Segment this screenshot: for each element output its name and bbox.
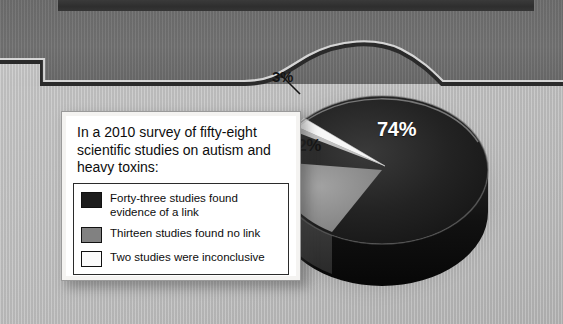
- legend-swatch-gray: [81, 227, 102, 243]
- info-box: In a 2010 survey of fifty-eight scientif…: [61, 111, 301, 281]
- headline-text: In a 2010 survey of fifty-eight scientif…: [66, 116, 296, 183]
- legend-label-inconclusive: Two studies were inconclusive: [110, 250, 265, 264]
- info-box-inner: In a 2010 survey of fifty-eight scientif…: [66, 116, 296, 276]
- legend-item-no-link: Thirteen studies found no link: [81, 226, 282, 243]
- legend-label-no-link: Thirteen studies found no link: [110, 226, 260, 240]
- pie-label-74: 74%: [377, 118, 416, 141]
- legend-item-link: Forty-three studies found evidence of a …: [81, 191, 282, 219]
- infographic-canvas: 74% 22% 3% In a 2010 survey of fifty-eig…: [0, 0, 563, 324]
- legend-item-inconclusive: Two studies were inconclusive: [81, 250, 282, 267]
- legend-label-link: Forty-three studies found evidence of a …: [110, 191, 282, 219]
- pie-label-3: 3%: [272, 68, 293, 85]
- legend-swatch-white: [81, 251, 102, 267]
- legend-panel: Forty-three studies found evidence of a …: [73, 183, 289, 275]
- legend-swatch-black: [81, 192, 102, 208]
